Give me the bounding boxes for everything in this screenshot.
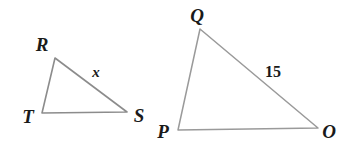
vertex-label-R: R	[36, 35, 49, 54]
vertex-label-P: P	[157, 122, 169, 141]
vertex-label-Q: Q	[190, 6, 204, 25]
vertex-label-O: O	[322, 122, 336, 141]
vertex-label-T: T	[22, 107, 34, 126]
side-label-x: x	[92, 65, 100, 80]
triangle-QPO-outline	[178, 29, 318, 130]
geometry-figure: R T S x Q P O 15	[0, 0, 344, 154]
triangles-svg	[0, 0, 344, 154]
side-label-15: 15	[265, 64, 281, 80]
vertex-label-S: S	[134, 106, 145, 125]
triangle-RTS-outline	[42, 58, 127, 113]
